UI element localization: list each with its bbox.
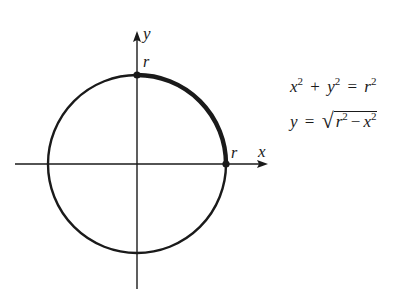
x-axis-label: x	[257, 142, 266, 161]
eq2-minus: −	[348, 112, 364, 131]
highlighted-arc	[137, 75, 226, 164]
eq1-y-exponent: 2	[335, 75, 341, 87]
eq1-y: y	[327, 77, 335, 96]
point-right-intercept	[222, 160, 229, 167]
eq1-x: x	[290, 77, 298, 96]
eq2-y: y	[290, 112, 298, 131]
diagram-canvas: y x r r	[0, 0, 418, 300]
equation-semicircle: y = √r2−x2	[290, 111, 377, 132]
right-point-label: r	[231, 144, 238, 161]
sqrt-icon: √	[322, 108, 334, 133]
eq1-r-exponent: 2	[371, 75, 377, 87]
point-top-intercept	[133, 71, 140, 78]
eq1-r: r	[364, 77, 371, 96]
y-axis-label: y	[141, 24, 151, 43]
eq2-x: x	[363, 112, 371, 131]
eq1-x-exponent: 2	[298, 75, 304, 87]
radicand: r2−x2	[334, 111, 378, 131]
top-point-label: r	[143, 53, 150, 70]
eq2-equals: =	[302, 112, 318, 131]
circle-diagram: y x r r x2 + y2 = r2 y = √r2−x2	[0, 0, 418, 300]
eq1-plus: +	[307, 77, 323, 96]
eq1-equals: =	[344, 77, 360, 96]
equation-circle: x2 + y2 = r2	[290, 77, 376, 97]
eq2-x-exponent: 2	[371, 110, 377, 122]
square-root: √r2−x2	[322, 111, 378, 132]
